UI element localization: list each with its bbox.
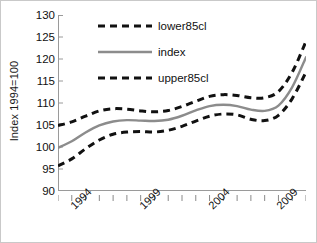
legend-item[interactable]: upper85cl <box>97 65 227 91</box>
legend-label: upper85cl <box>158 72 209 84</box>
y-axis-title: Index 1994=100 <box>3 1 25 201</box>
legend-label: index <box>158 46 186 58</box>
y-tick-label: 95 <box>42 163 55 175</box>
y-tick-label: 130 <box>36 9 55 21</box>
y-axis-tick-labels: 1301251201151101051009590 <box>23 15 57 191</box>
legend-swatch-index <box>97 46 153 58</box>
y-tick-label: 105 <box>36 119 55 131</box>
legend-item[interactable]: lower85cl <box>97 13 227 39</box>
y-tick-label: 125 <box>36 31 55 43</box>
legend-swatch-upper85cl <box>97 72 153 84</box>
legend-label: lower85cl <box>158 20 207 32</box>
x-axis: 1994199920042009 <box>58 191 306 241</box>
y-tick-label: 110 <box>37 97 55 109</box>
y-tick-label: 115 <box>37 75 55 87</box>
legend-item[interactable]: index <box>97 39 227 65</box>
y-tick-label: 100 <box>36 141 55 153</box>
chart-legend: lower85clindexupper85cl <box>97 13 227 91</box>
y-axis-title-text: Index 1994=100 <box>8 61 20 142</box>
x-axis-tickmarks <box>58 195 306 205</box>
chart-figure: Index 1994=100 1301251201151101051009590… <box>0 0 317 243</box>
y-tick-label: 120 <box>36 53 55 65</box>
y-tick-label: 90 <box>42 185 55 197</box>
legend-swatch-lower85cl <box>97 20 153 32</box>
